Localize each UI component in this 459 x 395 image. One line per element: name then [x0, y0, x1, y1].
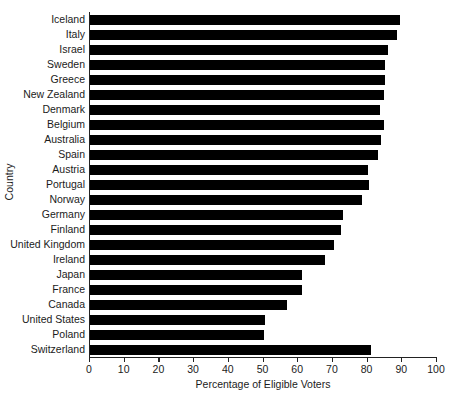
- y-axis-tick-label: Greece: [1, 74, 85, 85]
- bar-row: [90, 297, 437, 312]
- y-axis-tick-label: Finland: [1, 224, 85, 235]
- x-axis-tick-label: 60: [282, 363, 312, 375]
- x-axis-tick-label: 30: [178, 363, 208, 375]
- x-axis-tick: [332, 357, 333, 362]
- bar-row: [90, 222, 437, 237]
- bar-row: [90, 42, 437, 57]
- y-axis-tick-label: Denmark: [1, 104, 85, 115]
- x-axis-tick-label: 100: [421, 363, 451, 375]
- bar-row: [90, 132, 437, 147]
- bar-row: [90, 327, 437, 342]
- bar-row: [90, 162, 437, 177]
- x-axis-tick: [297, 357, 298, 362]
- y-axis-tick-label: Japan: [1, 269, 85, 280]
- bar-row: [90, 282, 437, 297]
- bar-row: [90, 177, 437, 192]
- x-axis-tick: [193, 357, 194, 362]
- bar: [90, 45, 388, 54]
- bar: [90, 60, 385, 69]
- bar: [90, 210, 343, 219]
- bar-row: [90, 207, 437, 222]
- bar-row: [90, 117, 437, 132]
- y-axis-tick-label: Norway: [1, 194, 85, 205]
- bar: [90, 270, 302, 279]
- bar-row: [90, 192, 437, 207]
- bar: [90, 180, 369, 189]
- bar: [90, 240, 334, 249]
- bar: [90, 105, 380, 114]
- y-axis-tick-label: Austria: [1, 164, 85, 175]
- x-axis-title: Percentage of Eligible Voters: [89, 378, 437, 390]
- bar-row: [90, 87, 437, 102]
- bar-row: [90, 252, 437, 267]
- bar: [90, 135, 381, 144]
- bar: [90, 15, 400, 24]
- y-axis-tick-label: Poland: [1, 329, 85, 340]
- bar: [90, 285, 302, 294]
- y-axis-tick-label: Israel: [1, 44, 85, 55]
- y-axis-tick-label: France: [1, 284, 85, 295]
- y-axis-tick-label: Spain: [1, 149, 85, 160]
- y-axis-tick-labels: IcelandItalyIsraelSwedenGreeceNew Zealan…: [0, 12, 85, 357]
- y-axis-tick-label: United States: [1, 314, 85, 325]
- y-axis-tick-label: Iceland: [1, 14, 85, 25]
- y-axis-tick-label: Italy: [1, 29, 85, 40]
- bar: [90, 255, 325, 264]
- x-axis-tick-label: 70: [317, 363, 347, 375]
- y-axis-tick-label: Belgium: [1, 119, 85, 130]
- x-axis-tick: [124, 357, 125, 362]
- x-axis-tick: [436, 357, 437, 362]
- bar-row: [90, 57, 437, 72]
- bar: [90, 75, 385, 84]
- bar: [90, 300, 287, 309]
- x-axis-tick-label: 40: [213, 363, 243, 375]
- x-axis-tick: [89, 357, 90, 362]
- bar-row: [90, 312, 437, 327]
- y-axis-tick-label: New Zealand: [1, 89, 85, 100]
- bar: [90, 120, 384, 129]
- bar-row: [90, 72, 437, 87]
- bar: [90, 225, 341, 234]
- x-axis-tick-label: 90: [386, 363, 416, 375]
- x-axis-tick-label: 20: [143, 363, 173, 375]
- bar-row: [90, 12, 437, 27]
- bar-row: [90, 102, 437, 117]
- y-axis-tick-label: Australia: [1, 134, 85, 145]
- bar-row: [90, 342, 437, 357]
- bar: [90, 330, 264, 339]
- bar: [90, 195, 362, 204]
- bar: [90, 150, 378, 159]
- x-axis-tick: [158, 357, 159, 362]
- x-axis-tick: [367, 357, 368, 362]
- bar-row: [90, 267, 437, 282]
- x-axis-tick-label: 10: [109, 363, 139, 375]
- x-axis-tick-label: 0: [74, 363, 104, 375]
- bar: [90, 165, 368, 174]
- x-axis-tick: [228, 357, 229, 362]
- bar-chart: Country IcelandItalyIsraelSwedenGreeceNe…: [0, 0, 459, 395]
- y-axis-tick-label: Ireland: [1, 254, 85, 265]
- x-axis-tick: [401, 357, 402, 362]
- x-axis-tick-label: 80: [352, 363, 382, 375]
- bar-row: [90, 237, 437, 252]
- y-axis-tick-label: United Kingdom: [1, 239, 85, 250]
- bar-row: [90, 147, 437, 162]
- bar: [90, 315, 265, 324]
- plot-area: [89, 12, 437, 357]
- x-axis-tick: [263, 357, 264, 362]
- bar: [90, 30, 397, 39]
- y-axis-tick-label: Germany: [1, 209, 85, 220]
- y-axis-tick-label: Portugal: [1, 179, 85, 190]
- x-axis-tick-label: 50: [248, 363, 278, 375]
- bar-row: [90, 27, 437, 42]
- y-axis-tick-label: Sweden: [1, 59, 85, 70]
- bar: [90, 90, 384, 99]
- y-axis-tick-label: Canada: [1, 299, 85, 310]
- bar: [90, 345, 371, 354]
- y-axis-tick-label: Switzerland: [1, 344, 85, 355]
